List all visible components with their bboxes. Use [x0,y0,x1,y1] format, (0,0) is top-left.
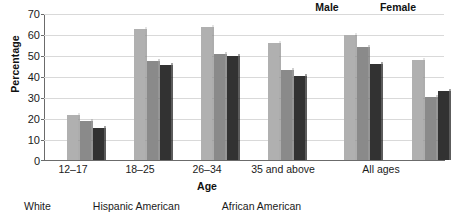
y-tick-label-10: 10 [0,135,40,146]
bar-african-american-group-4 [294,76,307,160]
bar-african-american-group-6 [438,91,451,160]
bar-group-1 [67,14,106,160]
legend-label-white: White [24,200,51,212]
legend: White Hispanic American African American [6,198,325,214]
plot-area [44,14,444,160]
y-tick-label-70: 70 [0,9,40,20]
legend-label-hispanic-american: Hispanic American [93,200,180,212]
bar-white-group-2 [134,29,147,160]
y-tick-label-0: 0 [0,156,40,167]
bar-hispanic-american-group-1 [80,121,93,160]
x-category-label-18-25: 18–25 [110,163,170,175]
bar-group-5 [344,14,383,160]
y-tick-label-40: 40 [0,72,40,83]
bar-african-american-group-3 [227,56,240,160]
subgroup-label-male: Male [300,1,354,13]
x-axis-line [44,160,445,161]
x-category-label-12-17: 12–17 [43,163,103,175]
legend-swatch-icon [6,200,17,212]
bar-group-4 [268,14,307,160]
bar-hispanic-american-group-6 [425,97,438,160]
bar-hispanic-american-group-2 [147,61,160,160]
bar-group-2 [134,14,173,160]
y-tick-label-50: 50 [0,51,40,62]
bar-african-american-group-5 [370,64,383,160]
legend-swatch-icon [75,200,86,212]
bar-group-6 [412,14,451,160]
bar-hispanic-american-group-5 [357,47,370,160]
bar-hispanic-american-group-4 [281,70,294,160]
bar-african-american-group-2 [160,65,173,160]
legend-item-hispanic-american[interactable]: Hispanic American [75,200,180,212]
bar-white-group-5 [344,35,357,160]
x-axis-title: Age [0,180,450,192]
y-tick-label-60: 60 [0,30,40,41]
bar-african-american-group-1 [93,128,106,160]
x-category-label-35-and-above: 35 and above [228,163,338,175]
x-category-label-all-ages: All ages [336,163,426,175]
bar-white-group-1 [67,115,80,160]
legend-label-african-american: African American [222,200,301,212]
bar-white-group-3 [201,27,214,160]
bar-hispanic-american-group-3 [214,54,227,160]
y-tick-label-20: 20 [0,114,40,125]
bar-white-group-6 [412,60,425,160]
legend-swatch-icon [204,200,215,212]
legend-item-white[interactable]: White [6,200,51,212]
y-tick-label-30: 30 [0,93,40,104]
subgroup-label-female: Female [368,1,428,13]
legend-item-african-american[interactable]: African American [204,200,301,212]
bar-white-group-4 [268,43,281,160]
bar-group-3 [201,14,240,160]
x-axis-title-text: Age [197,180,217,192]
